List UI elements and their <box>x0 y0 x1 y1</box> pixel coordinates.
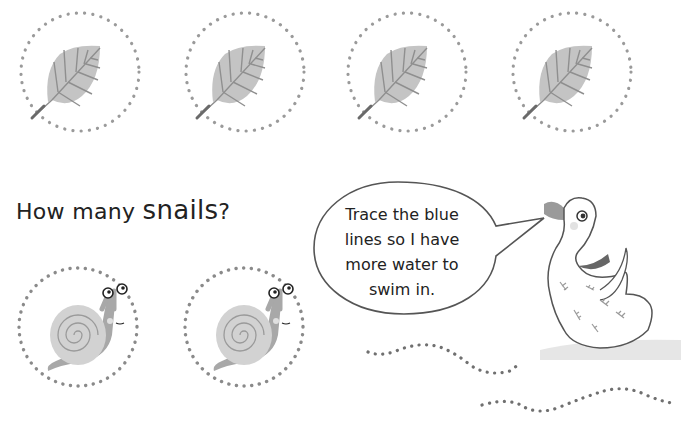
leaf-circle-1[interactable] <box>18 10 142 134</box>
question-suffix: ? <box>218 199 230 224</box>
activity-page: How many snails? <box>0 0 681 424</box>
question-emphasis: snails <box>143 195 219 225</box>
snail-circle-2[interactable] <box>182 265 306 389</box>
leaf-circle-2[interactable] <box>183 10 307 134</box>
bubble-line: more water to <box>322 252 482 277</box>
snail-circle-1[interactable] <box>16 265 140 389</box>
bubble-line: Trace the blue <box>322 202 482 227</box>
question-heading: How many snails? <box>16 195 230 225</box>
snail-icon <box>214 284 293 371</box>
leaf-circle-3[interactable] <box>345 10 469 134</box>
leaf-icon <box>197 46 265 118</box>
leaf-circle-4[interactable] <box>510 10 634 134</box>
tracing-line-2 <box>482 389 672 411</box>
question-prefix: How many <box>16 199 143 224</box>
tracing-lines[interactable] <box>360 335 681 424</box>
speech-bubble-text: Trace the blue lines so I have more wate… <box>322 202 482 302</box>
leaf-icon <box>359 46 427 118</box>
tracing-line-1 <box>368 345 518 373</box>
snail-icon <box>48 284 127 371</box>
leaf-icon <box>524 46 592 118</box>
bubble-line: swim in. <box>322 277 482 302</box>
bubble-line: lines so I have <box>322 227 482 252</box>
leaf-icon <box>32 46 100 118</box>
